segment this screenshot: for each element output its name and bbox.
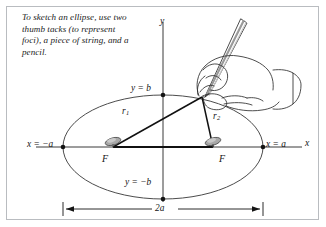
radius-2-subscript: 2 (217, 114, 220, 121)
vertex-top-dot (161, 93, 166, 98)
figure-page: To sketch an ellipse, use two thumb tack… (0, 0, 326, 227)
vertex-bottom-dot (161, 197, 166, 202)
focus-left-label: F (102, 154, 108, 164)
pencil-stripe (207, 21, 244, 95)
dimension-arrow-left (66, 206, 74, 212)
dimension-arrow-right (252, 206, 260, 212)
axes-group (36, 22, 302, 202)
vertex-right-dot (261, 145, 266, 150)
sleeve-cuff (273, 70, 293, 110)
finger-tip-line (247, 98, 263, 101)
x-axis-label: x (305, 138, 309, 148)
radius-1-label: r1 (122, 107, 129, 117)
radius-2-label: r2 (213, 112, 220, 122)
top-vertex-label: y = b (131, 84, 151, 93)
ring-finger (222, 96, 247, 98)
right-vertex-label: x = a (266, 140, 286, 149)
focus-right-label: F (219, 154, 225, 164)
thumbtack-left (104, 136, 121, 148)
ellipse-diagram (0, 0, 326, 227)
vertex-left-dot (61, 145, 66, 150)
string-r1-segment (113, 97, 202, 147)
y-axis-label: y (160, 16, 164, 26)
palm-lower-edge (226, 102, 279, 111)
little-finger (224, 103, 252, 105)
radius-1-subscript: 1 (126, 109, 129, 116)
thumb-outline (197, 76, 205, 95)
left-vertex-label: x = −a (27, 140, 53, 149)
sleeve-cuff-edge (293, 73, 301, 104)
thumbtack-right (204, 136, 221, 148)
hand-with-pencil-illustration (197, 19, 301, 111)
major-axis-dimension-label: 2a (155, 204, 164, 213)
bottom-vertex-label: y = −b (125, 178, 151, 187)
